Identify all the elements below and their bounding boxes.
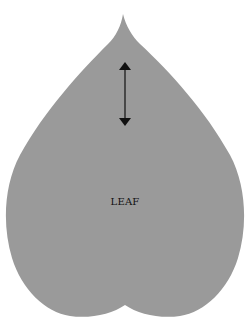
leaf-blade <box>6 14 244 317</box>
leaf-shape <box>0 0 250 317</box>
leaf-label: LEAF <box>0 196 250 207</box>
